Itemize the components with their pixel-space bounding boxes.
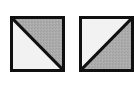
figure-canvas [0, 0, 134, 86]
diagonal-square-tile-left[interactable] [10, 16, 65, 72]
diagonal-square-right-graphic [79, 16, 134, 72]
diagonal-square-tile-right[interactable] [79, 16, 134, 72]
diagonal-square-left-graphic [10, 16, 65, 72]
